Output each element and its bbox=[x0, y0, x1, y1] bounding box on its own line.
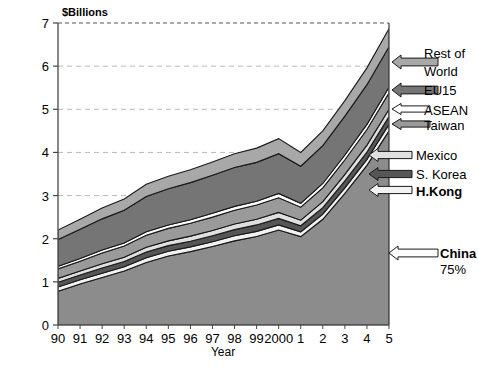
area-chart-svg: $Billions 01234567 909192939495969798992… bbox=[0, 0, 478, 369]
callout-label: Rest of bbox=[424, 46, 466, 61]
x-tick-label: 98 bbox=[227, 331, 241, 346]
y-tick-label: 1 bbox=[42, 275, 49, 290]
callout-label: EU15 bbox=[424, 83, 457, 98]
y-tick-label: 3 bbox=[42, 189, 49, 204]
y-axis-ticks: 01234567 bbox=[42, 16, 58, 333]
callout-label: H.Kong bbox=[416, 184, 462, 199]
callout-label: Taiwan bbox=[424, 118, 464, 133]
x-tick-label: 99 bbox=[249, 331, 263, 346]
y-tick-label: 0 bbox=[42, 318, 49, 333]
y-tick-label: 7 bbox=[42, 16, 49, 31]
x-axis-ticks: 90919293949596979899200012345 bbox=[51, 325, 393, 346]
x-tick-label: 93 bbox=[117, 331, 131, 346]
x-tick-label: 3 bbox=[341, 331, 348, 346]
x-axis-title: Year bbox=[211, 345, 235, 359]
x-tick-label: 2 bbox=[319, 331, 326, 346]
x-tick-label: 96 bbox=[183, 331, 197, 346]
x-tick-label: 94 bbox=[139, 331, 153, 346]
callout-arrow bbox=[389, 246, 438, 260]
callout-label: S. Korea bbox=[416, 167, 467, 182]
x-tick-label: 95 bbox=[161, 331, 175, 346]
y-tick-label: 6 bbox=[42, 59, 49, 74]
callout-label: China bbox=[440, 246, 477, 261]
callout-arrow bbox=[369, 184, 412, 197]
x-tick-label: 1 bbox=[297, 331, 304, 346]
callout-sublabel: 75% bbox=[440, 262, 466, 277]
x-tick-label: 92 bbox=[95, 331, 109, 346]
x-tick-label: 91 bbox=[73, 331, 87, 346]
y-tick-label: 4 bbox=[42, 145, 49, 160]
x-tick-label: 97 bbox=[205, 331, 219, 346]
x-tick-label: 5 bbox=[385, 331, 392, 346]
y-tick-label: 5 bbox=[42, 102, 49, 117]
y-tick-label: 2 bbox=[42, 232, 49, 247]
callout-sublabel: World bbox=[424, 64, 458, 79]
x-tick-label: 2000 bbox=[264, 331, 293, 346]
x-tick-label: 90 bbox=[51, 331, 65, 346]
y-axis-title: $Billions bbox=[62, 6, 108, 18]
stacked-area-series bbox=[58, 29, 389, 325]
chart-container: $Billions 01234567 909192939495969798992… bbox=[0, 0, 478, 369]
callout-label: ASEAN bbox=[424, 103, 468, 118]
callout-arrow bbox=[369, 168, 412, 181]
callout-arrow bbox=[369, 149, 412, 162]
x-tick-label: 4 bbox=[363, 331, 370, 346]
callout-label: Mexico bbox=[416, 148, 457, 163]
